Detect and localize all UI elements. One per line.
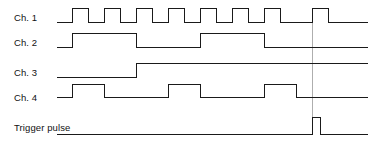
waveform-trace-ch-2 bbox=[57, 33, 368, 47]
channel-label-ch4: Ch. 4 bbox=[14, 93, 37, 103]
waveform-trace-ch-3 bbox=[57, 63, 368, 77]
waveform-trace-ch-1 bbox=[57, 8, 368, 22]
waveform-trace-ch-4 bbox=[57, 84, 368, 97]
waveform-layer bbox=[57, 8, 368, 134]
timing-diagram: Ch. 1Ch. 2Ch. 3Ch. 4Trigger pulse bbox=[0, 0, 374, 145]
channel-label-ch1: Ch. 1 bbox=[14, 13, 37, 23]
channel-label-trigger: Trigger pulse bbox=[14, 123, 70, 133]
channel-label-ch2: Ch. 2 bbox=[14, 38, 37, 48]
channel-label-ch3: Ch. 3 bbox=[14, 68, 37, 78]
waveform-trace-trigger-pulse bbox=[57, 117, 368, 134]
